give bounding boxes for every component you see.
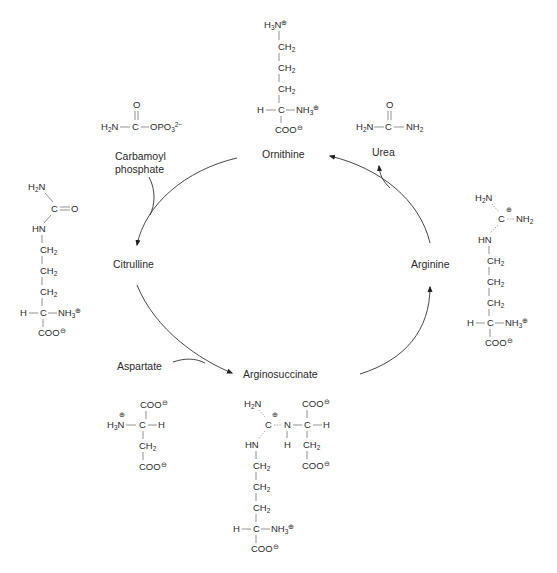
svg-text:NH3⊕: NH3⊕ <box>296 104 319 116</box>
svg-text:O: O <box>71 203 78 214</box>
svg-text:H2N: H2N <box>356 121 374 133</box>
svg-text:CH2: CH2 <box>40 244 58 256</box>
svg-text:NH2: NH2 <box>406 121 424 133</box>
svg-text:C: C <box>253 523 260 534</box>
svg-text:⊕: ⊕ <box>119 411 125 418</box>
svg-text:H2N: H2N <box>101 121 119 133</box>
svg-text:CH2: CH2 <box>40 286 58 298</box>
structure-arginosuccinate: H2N C ⊕ N C H COO⊖ H CH2 COO⊖ HN CH2 CH2… <box>233 398 330 554</box>
arrow-arginosuccinate-to-arginine <box>360 287 430 374</box>
svg-text:NH3⊕: NH3⊕ <box>58 307 81 319</box>
label-ornithine: Ornithine <box>262 148 305 160</box>
svg-text:C: C <box>487 317 494 328</box>
svg-text:CH2: CH2 <box>253 502 271 514</box>
svg-text:CH2: CH2 <box>487 255 505 267</box>
svg-text:COO⊖: COO⊖ <box>485 337 513 348</box>
structure-ornithine: H3N⊕ CH2 CH2 CH2 H C NH3⊕ COO⊖ <box>257 19 319 135</box>
svg-text:H2N: H2N <box>244 398 262 410</box>
label-citrulline: Citrulline <box>113 258 154 270</box>
svg-text:COO⊖: COO⊖ <box>140 399 168 410</box>
svg-text:COO⊖: COO⊖ <box>302 398 330 409</box>
svg-text:C: C <box>132 121 139 132</box>
structure-urea: O H2N C NH2 <box>356 99 424 133</box>
svg-text:H: H <box>158 419 165 430</box>
svg-text:C: C <box>139 419 146 430</box>
svg-text:H3N⊕: H3N⊕ <box>264 19 287 31</box>
svg-text:COO⊖: COO⊖ <box>302 460 330 471</box>
svg-text:CH2: CH2 <box>253 481 271 493</box>
svg-text:HN: HN <box>478 234 492 245</box>
arrow-aspartate-input <box>173 359 205 363</box>
svg-text:H: H <box>467 317 474 328</box>
svg-text:CH2: CH2 <box>278 62 296 74</box>
svg-text:H2N: H2N <box>28 181 46 193</box>
svg-text:⊕: ⊕ <box>506 206 512 213</box>
svg-text:HN: HN <box>32 223 46 234</box>
structure-aspartate: COO⊖ ⊕ H3N C H CH2 COO⊖ <box>107 399 168 472</box>
svg-text:OPO32−: OPO32− <box>150 121 182 133</box>
label-urea: Urea <box>372 146 395 158</box>
svg-text:CH2: CH2 <box>40 265 58 277</box>
svg-text:HN: HN <box>245 439 259 450</box>
label-arginosuccinate: Arginosuccinate <box>243 368 318 380</box>
svg-text:H: H <box>20 307 27 318</box>
svg-text:N: N <box>284 419 291 430</box>
svg-text:H: H <box>233 523 240 534</box>
svg-text:⊕: ⊕ <box>272 411 278 418</box>
svg-text:COO⊖: COO⊖ <box>139 461 167 472</box>
label-carbamoyl: Carbamoyl <box>115 150 166 162</box>
label-arginine: Arginine <box>411 258 450 270</box>
svg-text:C: C <box>498 213 505 224</box>
structure-arginine: H2N C ⊕ NH2 HN CH2 CH2 CH2 H C NH3⊕ COO⊖ <box>467 192 534 348</box>
svg-text:COO⊖: COO⊖ <box>38 327 66 338</box>
svg-text:C: C <box>278 104 285 115</box>
svg-text:C: C <box>40 307 47 318</box>
label-phosphate: phosphate <box>115 163 164 175</box>
svg-text:C: C <box>385 121 392 132</box>
svg-text:H: H <box>257 104 264 115</box>
urea-cycle-diagram: Ornithine Citrulline Arginosuccinate Arg… <box>0 0 557 573</box>
cycle-arrows <box>137 156 430 374</box>
arrow-arginine-to-ornithine <box>330 156 430 243</box>
structure-carbamoyl-phosphate: O H2N C OPO32− <box>101 99 182 133</box>
svg-text:COO⊖: COO⊖ <box>251 543 279 554</box>
label-aspartate: Aspartate <box>117 360 162 372</box>
svg-text:CH2: CH2 <box>278 41 296 53</box>
svg-text:H2N: H2N <box>475 192 493 204</box>
svg-text:C: C <box>51 203 58 214</box>
svg-text:NH2: NH2 <box>516 213 534 225</box>
svg-text:C: C <box>304 419 311 430</box>
svg-text:CH2: CH2 <box>278 83 296 95</box>
svg-text:CH2: CH2 <box>487 297 505 309</box>
structure-citrulline: H2N C O HN CH2 CH2 CH2 H C NH3⊕ COO⊖ <box>20 181 81 338</box>
svg-text:COO⊖: COO⊖ <box>275 124 303 135</box>
svg-text:CH2: CH2 <box>303 439 321 451</box>
svg-text:CH2: CH2 <box>253 460 271 472</box>
svg-text:O: O <box>133 99 140 110</box>
svg-text:CH2: CH2 <box>487 276 505 288</box>
svg-text:H: H <box>284 439 291 450</box>
svg-text:NH3⊕: NH3⊕ <box>505 317 528 329</box>
svg-text:NH3⊕: NH3⊕ <box>271 523 294 535</box>
svg-text:C: C <box>265 419 272 430</box>
svg-text:H: H <box>323 419 330 430</box>
svg-text:O: O <box>386 99 393 110</box>
svg-text:CH2: CH2 <box>139 440 157 452</box>
svg-text:H3N: H3N <box>107 419 125 431</box>
